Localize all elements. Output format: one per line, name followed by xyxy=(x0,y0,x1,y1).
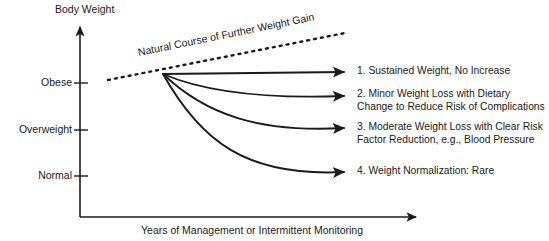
trajectory-curve-1 xyxy=(163,72,344,74)
y-tick-label-overweight: Overweight xyxy=(6,123,72,136)
outcome-label-1: 1. Sustained Weight, No Increase xyxy=(357,65,547,78)
trajectory-curve-2 xyxy=(163,74,344,97)
y-axis-title: Body Weight xyxy=(55,3,114,16)
x-axis-title: Years of Management or Intermittent Moni… xyxy=(141,224,363,237)
y-tick-label-obese: Obese xyxy=(6,76,72,89)
outcome-label-2: 2. Minor Weight Loss with Dietary Change… xyxy=(357,88,547,113)
weight-management-diagram: Body Weight Years of Management or Inter… xyxy=(0,0,549,241)
trajectory-curve-3 xyxy=(163,74,344,129)
outcome-label-3: 3. Moderate Weight Loss with Clear Risk … xyxy=(357,121,547,146)
y-tick-label-normal: Normal xyxy=(6,169,72,182)
outcome-label-4: 4. Weight Normalization: Rare xyxy=(357,165,547,178)
